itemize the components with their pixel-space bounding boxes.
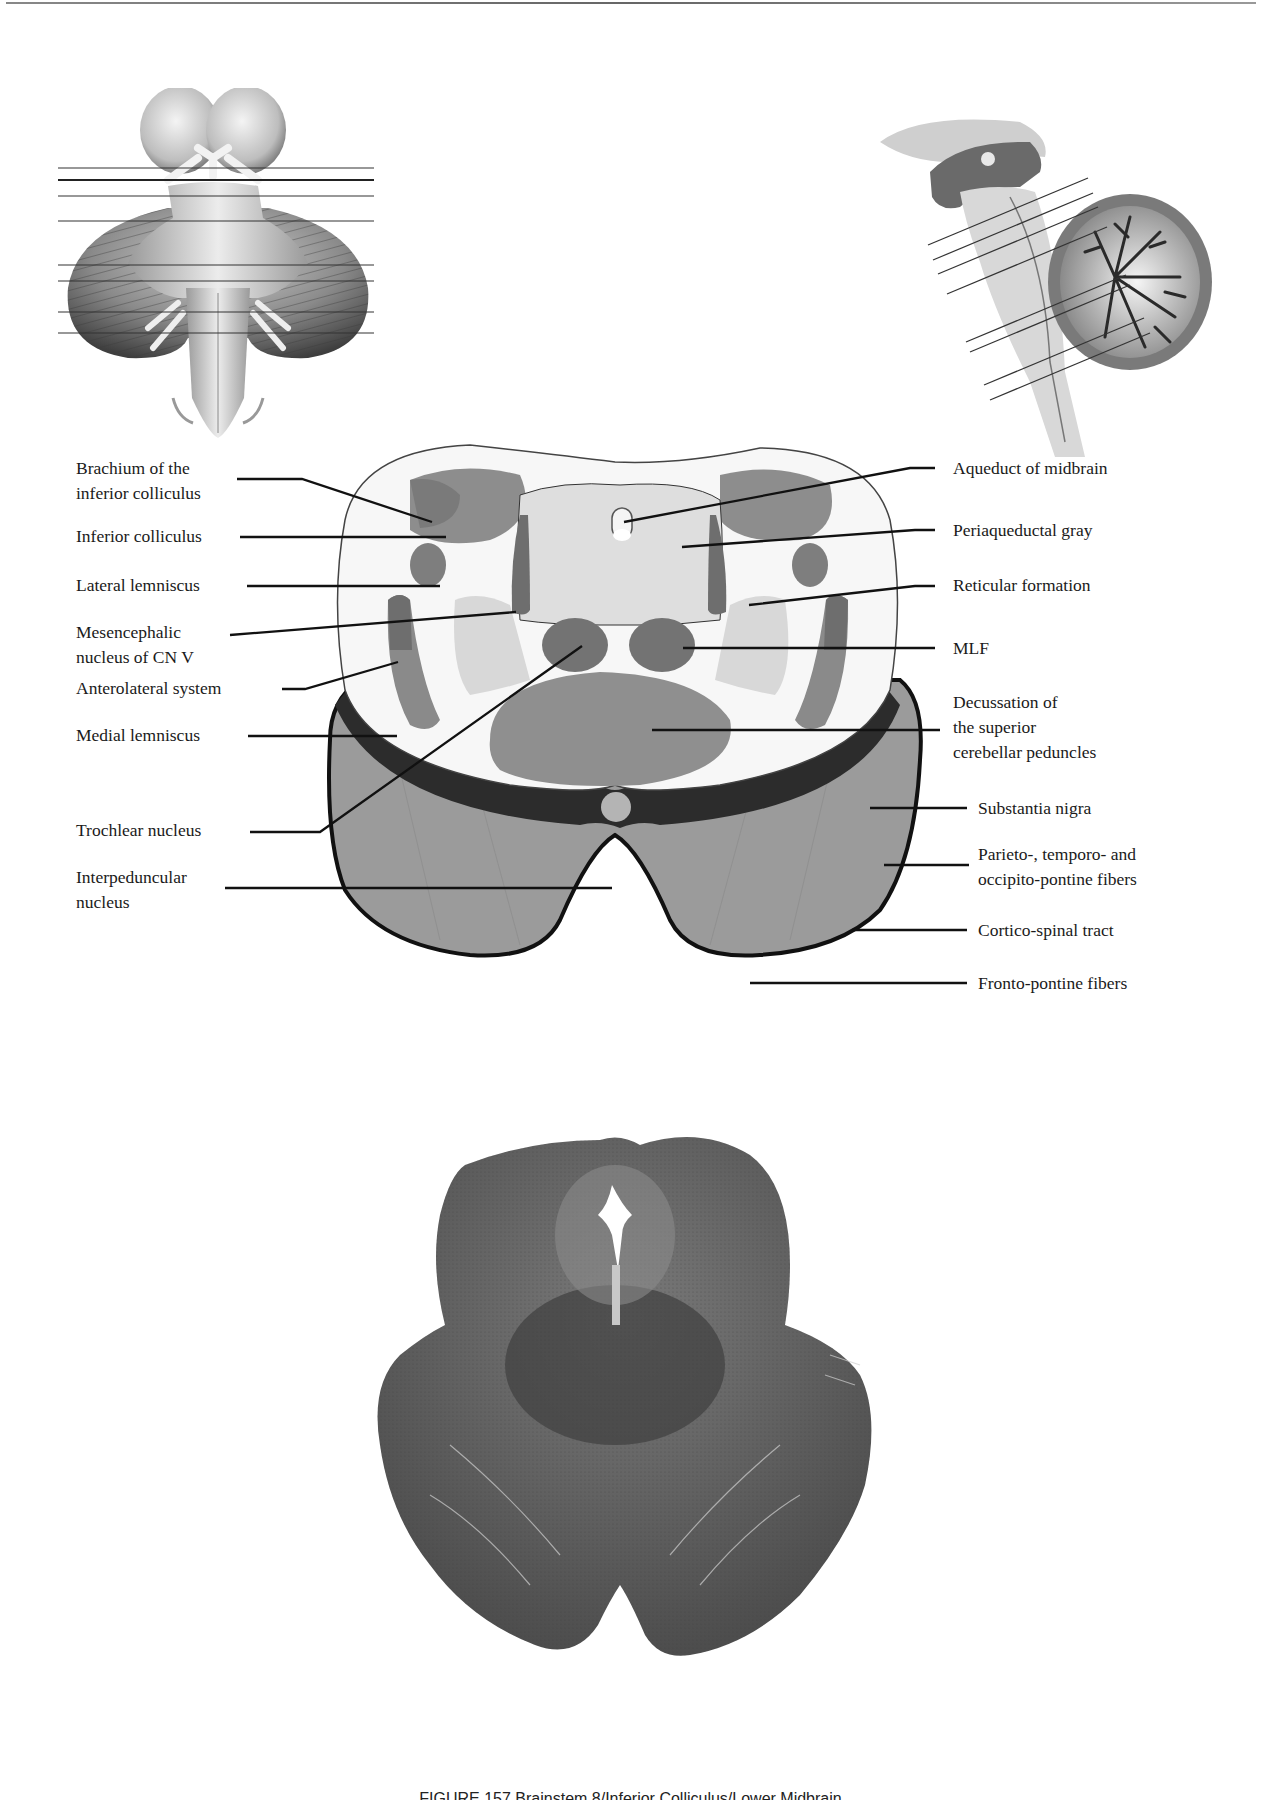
label-parieto-temporo-occipito-pontine-fibers: Parieto-, temporo- and occipito-pontine … — [978, 842, 1137, 892]
periaqueductal-gray — [518, 484, 723, 625]
midbrain-cross-section-diagram: Brachium of the inferior colliculus Infe… — [0, 440, 1261, 1080]
ventral-brainstem-thumbnail — [58, 88, 378, 448]
label-aqueduct-of-midbrain: Aqueduct of midbrain — [953, 456, 1108, 481]
midsagittal-thumbnail — [860, 112, 1230, 457]
label-fronto-pontine-fibers: Fronto-pontine fibers — [978, 971, 1127, 996]
label-mlf: MLF — [953, 636, 989, 661]
label-inferior-colliculus: Inferior colliculus — [76, 524, 202, 549]
label-medial-lemniscus: Medial lemniscus — [76, 723, 200, 748]
label-anterolateral-system: Anterolateral system — [76, 676, 221, 701]
top-rule — [6, 2, 1256, 4]
lateral-lemniscus-right — [792, 543, 828, 587]
label-reticular-formation: Reticular formation — [953, 573, 1091, 598]
trochlear-nucleus — [542, 618, 608, 672]
interpeduncular-nucleus — [601, 792, 631, 822]
figure-caption-clip: FIGURE 157 Brainstem 8/Inferior Collicul… — [0, 1788, 1261, 1800]
label-cortico-spinal-tract: Cortico-spinal tract — [978, 918, 1114, 943]
label-decussation-superior-cerebellar-peduncles: Decussation of the superior cerebellar p… — [953, 690, 1096, 765]
label-brachium-inferior-colliculus: Brachium of the inferior colliculus — [76, 456, 201, 506]
histology-section — [360, 1115, 880, 1705]
label-trochlear-nucleus: Trochlear nucleus — [76, 818, 201, 843]
mlf — [629, 618, 695, 672]
figure-caption: FIGURE 157 Brainstem 8/Inferior Collicul… — [0, 1788, 1261, 1800]
inferior-colliculus-right — [720, 469, 832, 540]
label-lateral-lemniscus: Lateral lemniscus — [76, 573, 200, 598]
thalamus-right — [206, 88, 286, 174]
label-periaqueductal-gray: Periaqueductal gray — [953, 518, 1092, 543]
label-interpeduncular-nucleus: Interpeduncular nucleus — [76, 865, 187, 915]
lateral-lemniscus-left — [410, 543, 446, 587]
label-mesencephalic-nucleus-cn-v: Mesencephalic nucleus of CN V — [76, 620, 194, 670]
label-substantia-nigra: Substantia nigra — [978, 796, 1091, 821]
